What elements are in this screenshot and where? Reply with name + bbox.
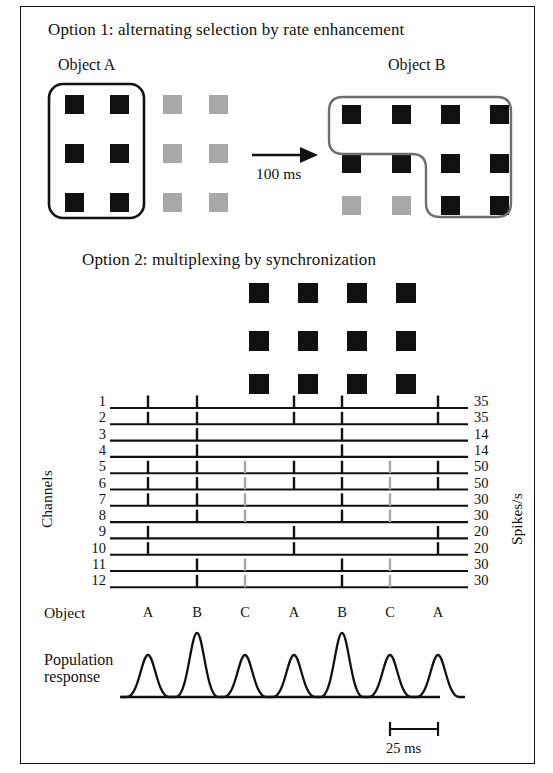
population-response-trace [121, 633, 465, 697]
population-response-svg [0, 0, 553, 773]
figure-root: Option 1: alternating selection by rate … [0, 0, 553, 773]
scale-bar [390, 722, 438, 736]
scale-bar-label: 25 ms [386, 740, 421, 757]
